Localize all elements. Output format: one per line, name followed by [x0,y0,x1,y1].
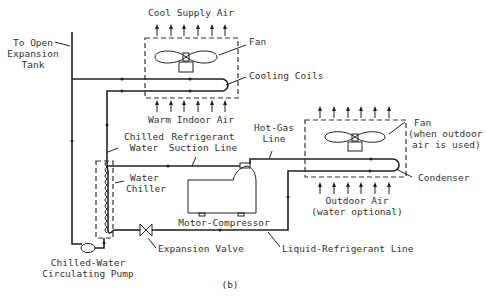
cool-supply-air-label: Cool Supply Air [148,7,234,18]
outdoor-fan-label-3: air is used) [412,139,481,150]
outdoor-condenser-unit [305,106,412,194]
outdoor-fan-icon [325,132,385,151]
circulating-pump-icon [81,238,106,253]
pump-label-2: Circulating Pump [42,268,134,279]
warm-indoor-air-arrows [155,100,227,112]
liquid-line-label: Liquid-Refrigerant Line [282,243,414,254]
hot-gas-line-label-2: Line [263,133,286,144]
indoor-fan-label: Fan [249,36,266,47]
hot-gas-line-label-1: Hot-Gas [254,122,294,133]
outdoor-fan-label-2: (when outdoor [408,128,483,139]
cool-supply-air-arrows [155,24,227,36]
water-chiller [96,148,124,238]
expansion-tank-label-1: To Open [13,37,53,48]
indoor-fan-icon [155,51,217,72]
expansion-valve-label: Expansion Valve [158,243,244,254]
figure-caption: (b) [221,279,238,290]
motor-compressor [188,163,256,216]
chilled-water-label-2: Water [130,142,159,153]
suction-line-label-1: Refrigerant [172,131,235,142]
condenser-label: Condenser [418,172,470,183]
warm-indoor-air-label: Warm Indoor Air [148,114,234,125]
water-chiller-label-2: Chiller [126,183,166,194]
outdoor-air-label-1: Outdoor Air [326,195,389,206]
expansion-tank-label-2: Expansion [7,48,58,59]
chilled-water-label-1: Chilled [124,131,164,142]
chilled-water-return-line [72,32,82,244]
motor-compressor-label: Motor-Compressor [178,217,270,228]
pump-label-1: Chilled-Water [51,257,126,268]
outdoor-fan-label-1: Fan [414,117,431,128]
outdoor-air-label-2: (water optional) [311,206,403,217]
indoor-air-handler [72,24,246,148]
expansion-tank-label-3: Tank [22,59,45,70]
cooling-coils-label: Cooling Coils [249,70,323,81]
water-chiller-label-1: Water [130,172,159,183]
refrigeration-cycle-diagram: Cool Supply Air Fan Cooling Coils Warm I… [0,0,486,298]
suction-line-label-2: Suction Line [169,142,238,153]
